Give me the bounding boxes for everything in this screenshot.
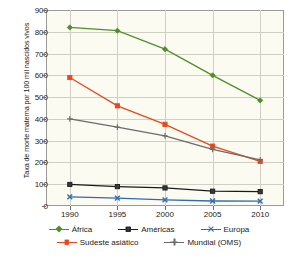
maternal-mortality-line-chart: Taxa de morte materna por 100 mil nascid… [0,0,298,262]
x-axis-tick-label: 1990 [50,210,90,219]
data-point-diamond-marker [67,25,72,30]
data-point-diamond-marker [210,73,215,78]
data-point-square-marker [68,75,72,79]
series-sudeste-asi-tico [68,75,263,163]
legend-swatch [118,224,138,234]
legend-row-primary: ÁfricaAméricas Europa [0,224,298,234]
x-axis-tick-mark [260,206,261,210]
legend-label: Sudeste asiático [80,238,139,247]
x-axis-tick-mark [70,206,71,210]
data-point-square-marker [163,122,167,126]
x-axis-tick-mark [117,206,118,210]
series-europa [67,194,262,203]
series-layer [46,10,284,206]
data-point-diamond-marker [115,28,120,33]
legend-swatch [164,237,184,247]
y-axis-tick-mark [42,119,46,120]
series-am-ricas [68,182,263,193]
y-axis-tick-mark [42,206,46,207]
legend-item-mundial-oms[interactable]: Mundial (OMS) [164,237,241,247]
y-axis-tick-mark [42,10,46,11]
legend-label: Américas [141,225,174,234]
data-point-square-marker [115,104,119,108]
data-point-diamond-marker [162,47,167,52]
legend-item-sudeste-asi-tico[interactable]: Sudeste asiático [57,237,139,247]
x-axis-tick-mark [165,206,166,210]
y-axis-tick-mark [42,97,46,98]
legend-label: África [72,225,92,234]
data-point-square-marker [163,186,167,190]
legend-item-frica[interactable]: África [49,224,92,234]
legend-row-secondary: Sudeste asiático Mundial (OMS) [0,237,298,247]
data-point-square-marker [68,182,72,186]
legend-swatch [57,237,77,247]
series-line [70,78,260,162]
legend-item-am-ricas[interactable]: Américas [118,224,174,234]
data-point-square-marker [211,189,215,193]
data-point-square-marker [115,185,119,189]
legend-label: Europa [224,225,250,234]
x-axis-tick-label: 2000 [145,210,185,219]
data-point-plus-marker [67,116,73,122]
legend-diamond-icon [55,225,62,232]
x-axis-tick-label: 1995 [97,210,137,219]
legend-x-icon [207,226,214,233]
series-frica [67,25,263,103]
legend-label: Mundial (OMS) [187,238,241,247]
x-axis-tick-label: 2005 [193,210,233,219]
y-axis-tick-mark [42,75,46,76]
x-axis-tick-label: 2010 [240,210,280,219]
chart-legend: ÁfricaAméricas Europa Sudeste asiático M… [0,224,298,250]
y-axis-tick-mark [42,141,46,142]
legend-plus-icon [171,239,178,246]
series-line [70,27,260,100]
legend-swatch [201,224,221,234]
y-axis-tick-mark [42,32,46,33]
legend-square-icon [126,227,131,232]
legend-swatch [49,224,69,234]
data-point-diamond-marker [258,98,263,103]
y-axis-tick-mark [42,54,46,55]
y-axis-tick-mark [42,184,46,185]
data-point-plus-marker [162,133,168,139]
legend-square-icon [65,240,70,245]
plot-wrapper [46,10,284,206]
y-axis-tick-mark [42,162,46,163]
legend-item-europa[interactable]: Europa [201,224,250,234]
data-point-plus-marker [115,124,121,130]
data-point-square-marker [258,190,262,194]
x-axis-tick-mark [213,206,214,210]
